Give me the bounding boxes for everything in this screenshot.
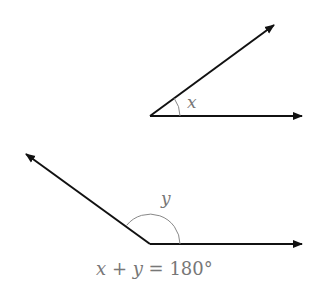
angle-y-arc (127, 214, 181, 244)
angle-x-label: x (187, 92, 197, 112)
angle-diagram: x y x + y = 180° (0, 0, 324, 291)
bottom-slanted-ray (26, 154, 150, 244)
top-angle: x (150, 25, 302, 116)
equation-x: x (96, 258, 106, 279)
equation-result: = 180° (143, 258, 213, 279)
top-slanted-ray (150, 25, 274, 116)
angle-x-arc (174, 98, 180, 116)
equation-text: x + y = 180° (96, 258, 213, 279)
bottom-angle: y (26, 154, 302, 244)
angle-y-label: y (160, 188, 171, 208)
equation-plus: + (106, 258, 133, 279)
